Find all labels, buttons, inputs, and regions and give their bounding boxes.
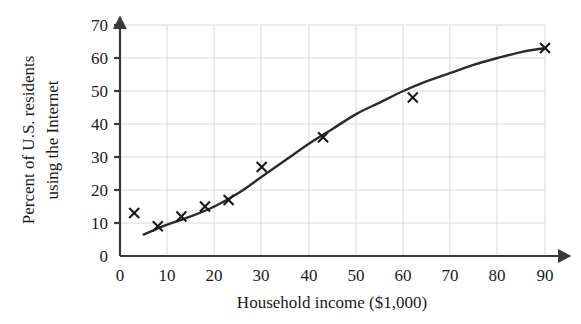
x-tick-label-30: 30 <box>253 266 270 285</box>
data-point-marker <box>257 162 267 172</box>
x-tick-label-20: 20 <box>206 266 223 285</box>
y-tick-label-30: 30 <box>91 148 108 167</box>
y-tick-label-0: 0 <box>100 247 109 266</box>
scatter-plot-svg: 70 60 50 40 30 20 10 0 0 10 20 30 40 50 … <box>0 0 581 324</box>
y-axis-title-line1: Percent of U.S. residents <box>19 56 38 225</box>
x-tick-label-10: 10 <box>159 266 176 285</box>
data-point-marker <box>408 93 418 103</box>
y-tick-label-70: 70 <box>91 16 108 35</box>
x-tick-label-0: 0 <box>116 266 125 285</box>
x-tick-label-60: 60 <box>395 266 412 285</box>
y-tick-label-40: 40 <box>91 115 108 134</box>
y-tick-label-60: 60 <box>91 49 108 68</box>
data-point-markers <box>129 43 550 231</box>
x-tick-label-50: 50 <box>348 266 365 285</box>
y-axis-title-line2: using the Internet <box>43 80 62 199</box>
y-tick-label-50: 50 <box>91 82 108 101</box>
x-tick-label-90: 90 <box>537 266 554 285</box>
x-tick-label-80: 80 <box>489 266 506 285</box>
chart-figure: 70 60 50 40 30 20 10 0 0 10 20 30 40 50 … <box>0 0 581 324</box>
x-tick-label-70: 70 <box>442 266 459 285</box>
y-tick-label-10: 10 <box>91 214 108 233</box>
x-tick-labels: 0 10 20 30 40 50 60 70 80 90 <box>116 266 554 285</box>
x-axis-title: Household income ($1,000) <box>237 293 427 312</box>
gridlines-horizontal <box>120 25 545 223</box>
data-point-marker <box>129 208 139 218</box>
y-tick-label-20: 20 <box>91 181 108 200</box>
y-tick-labels: 70 60 50 40 30 20 10 0 <box>91 16 108 266</box>
x-tick-label-40: 40 <box>301 266 318 285</box>
